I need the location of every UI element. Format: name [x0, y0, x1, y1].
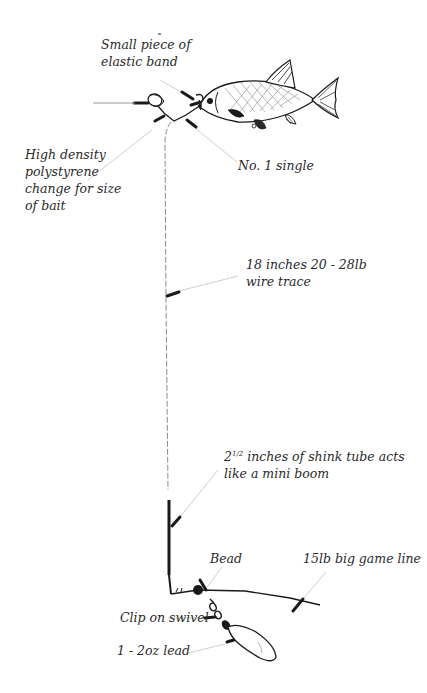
label-lead-text: 1 - 2oz lead — [117, 643, 190, 658]
label-wire-trace: 18 inches 20 - 28lb wire trace — [246, 256, 367, 290]
label-polystyrene: High density polystyrene change for size… — [25, 146, 121, 214]
label-elastic-band: Small piece of elastic band — [101, 36, 191, 70]
label-shrink-tube: 21/2 inches of shink tube acts like a mi… — [224, 448, 405, 482]
label-shrink-tube-line1: 21/2 inches of shink tube acts — [224, 448, 405, 465]
label-bead: Bead — [210, 550, 242, 567]
label-swivel-text: Clip on swivel — [120, 610, 209, 625]
label-shrink-tube-rest: inches of shink tube acts — [243, 449, 404, 464]
label-lead: 1 - 2oz lead — [117, 642, 190, 659]
label-shrink-tube-fraction: 1/2 — [232, 450, 243, 458]
label-polystyrene-line4: of bait — [25, 197, 121, 214]
label-elastic-band-line1: Small piece of — [101, 36, 191, 53]
label-elastic-band-line2: elastic band — [101, 53, 191, 70]
rig-illustration — [0, 0, 427, 693]
shrink-tube-end — [169, 575, 171, 594]
label-polystyrene-line2: polystyrene — [25, 163, 121, 180]
wire-trace — [165, 122, 171, 490]
label-shrink-tube-line2: like a mini boom — [224, 465, 405, 482]
label-wire-trace-line2: wire trace — [246, 273, 367, 290]
label-polystyrene-line3: change for size — [25, 180, 121, 197]
rig-diagram: Small piece of elastic band High density… — [0, 0, 427, 693]
label-hook: No. 1 single — [238, 157, 314, 174]
label-swivel: Clip on swivel — [120, 609, 209, 626]
polystyrene-float — [146, 92, 164, 108]
clip-on-swivel — [208, 599, 231, 630]
label-shrink-tube-number: 2 — [224, 449, 232, 464]
label-main-line: 15lb big game line — [303, 550, 421, 567]
lead-weight — [228, 625, 276, 660]
bait-fish — [198, 60, 338, 129]
bead — [193, 585, 203, 595]
label-bead-text: Bead — [210, 551, 242, 566]
label-hook-text: No. 1 single — [238, 158, 314, 173]
label-main-line-text: 15lb big game line — [303, 551, 421, 566]
label-polystyrene-line1: High density — [25, 146, 121, 163]
label-wire-trace-line1: 18 inches 20 - 28lb — [246, 256, 367, 273]
